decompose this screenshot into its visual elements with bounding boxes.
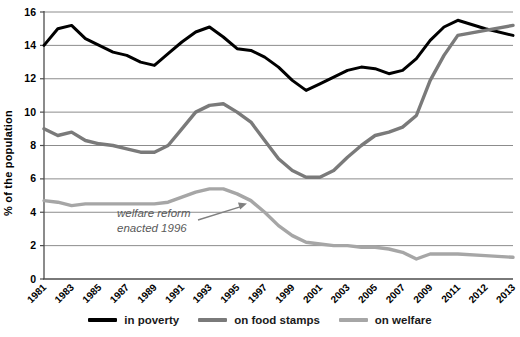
annotation-line1: welfare reform: [117, 206, 191, 221]
y-axis-title: % of the population: [2, 98, 14, 228]
y-tick-label: 0: [30, 273, 36, 285]
x-tick-label: 2001: [301, 281, 325, 305]
legend: in poverty on food stamps on welfare: [0, 314, 520, 326]
x-tick-label: 1989: [135, 281, 159, 305]
legend-item-on-food-stamps: on food stamps: [198, 314, 320, 326]
chart-canvas: 0246810121416198119831985198719891991199…: [0, 0, 520, 337]
x-tick-label: 1981: [25, 281, 49, 305]
y-tick-label: 8: [30, 139, 36, 151]
x-tick-label: 1999: [273, 281, 297, 305]
x-tick-label: 2009: [411, 281, 435, 305]
legend-item-on-welfare: on welfare: [339, 314, 432, 326]
x-tick-label: 1995: [218, 281, 242, 305]
x-tick-label: 2012: [466, 281, 490, 305]
y-tick-label: 16: [24, 6, 36, 18]
x-tick-label: 2011: [439, 281, 462, 304]
y-axis-ticks: 0246810121416: [24, 6, 44, 285]
y-tick-label: 12: [24, 72, 36, 84]
legend-item-in-poverty: in poverty: [88, 314, 179, 326]
gridlines: [44, 12, 513, 246]
legend-label: in poverty: [124, 314, 179, 326]
x-axis-ticks: 1981198319851987198919911993199519971999…: [25, 281, 518, 305]
legend-label: on welfare: [375, 314, 432, 326]
x-tick-label: 1983: [52, 281, 76, 305]
x-tick-label: 2007: [384, 281, 408, 305]
x-tick-label: 1997: [246, 281, 270, 305]
x-tick-label: 2003: [328, 281, 352, 305]
x-tick-label: 1985: [80, 281, 104, 305]
x-tick-label: 2013: [494, 281, 518, 305]
y-tick-label: 6: [30, 172, 36, 184]
series-line-on-welfare: [44, 189, 513, 259]
x-tick-label: 1991: [163, 281, 187, 305]
line-chart: 0246810121416198119831985198719891991199…: [0, 0, 520, 337]
y-tick-label: 10: [24, 106, 36, 118]
y-tick-label: 14: [24, 39, 36, 51]
x-tick-label: 2005: [356, 281, 380, 305]
legend-label: on food stamps: [234, 314, 320, 326]
annotation-text: welfare reform enacted 1996: [117, 206, 191, 236]
x-tick-label: 1993: [190, 281, 214, 305]
on-welfare-line-swatch-icon: [339, 318, 368, 322]
in-poverty-line-swatch-icon: [88, 318, 117, 322]
x-tick-label: 1987: [108, 281, 132, 305]
on-food-stamps-line-swatch-icon: [198, 318, 227, 322]
y-tick-label: 2: [30, 239, 36, 251]
annotation-arrow-icon: [198, 203, 247, 220]
y-tick-label: 4: [30, 206, 36, 218]
series-line-on-food-stamps: [44, 25, 513, 177]
annotation-line2: enacted 1996: [117, 221, 191, 236]
